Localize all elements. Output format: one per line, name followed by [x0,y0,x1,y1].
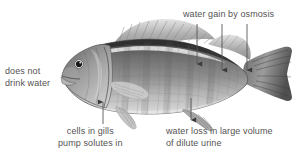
label-nodrink-line1: does not [5,66,50,78]
label-cells-in-gills: cells in gills pump solutes in [58,126,123,149]
label-water-loss-urine: water loss in large volume of dilute uri… [166,126,273,149]
figure-canvas: water gain by osmosis does not drink wat… [0,0,306,155]
label-loss-line1: water loss in large volume [166,126,273,138]
label-nodrink-line2: drink water [5,78,50,90]
label-loss-line2: of dilute urine [166,138,273,150]
label-does-not-drink-water: does not drink water [5,66,50,89]
label-water-gain-by-osmosis: water gain by osmosis [183,9,274,21]
fish-head [61,45,112,109]
label-gills-line2: pump solutes in [58,138,123,150]
label-gills-line1: cells in gills [58,126,123,138]
label-osmosis-text: water gain by osmosis [183,9,274,19]
